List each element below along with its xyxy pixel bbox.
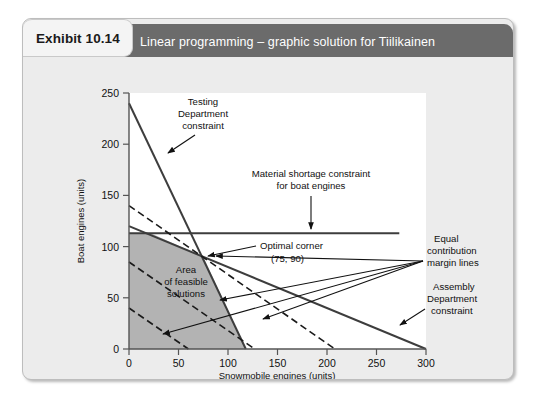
optimal-label-line1: Optimal corner	[260, 240, 324, 251]
y-tick-200: 200	[101, 138, 119, 150]
x-tick-50: 50	[173, 357, 185, 369]
material-label-line2: for boat engines	[277, 180, 346, 191]
exhibit-card: Linear programming – graphic solution fo…	[22, 18, 514, 380]
x-axis-tick-labels: 0 50 100 150 200 250 300	[126, 357, 435, 369]
x-tick-300: 300	[417, 357, 435, 369]
x-tick-100: 100	[219, 357, 237, 369]
material-label-line1: Material shortage constraint	[252, 168, 371, 179]
y-axis-title: Boat engines (units)	[75, 179, 86, 264]
feasible-label-line3: solutions	[167, 288, 205, 299]
assembly-label-line1: Assembly	[433, 281, 475, 292]
testing-label-line2: Department	[178, 108, 228, 119]
testing-label-line3: constraint	[182, 120, 224, 131]
assembly-label-line3: constraint	[431, 305, 473, 316]
assembly-label-line2: Department	[427, 293, 477, 304]
y-tick-0: 0	[113, 343, 119, 355]
equal-margin-label-line3: margin lines	[427, 257, 479, 268]
linear-programming-chart: 250 200 150 100 50 0 0 50 100	[23, 57, 513, 379]
y-tick-250: 250	[101, 87, 119, 99]
y-tick-150: 150	[101, 189, 119, 201]
x-tick-0: 0	[126, 357, 132, 369]
x-tick-200: 200	[318, 357, 336, 369]
exhibit-header: Linear programming – graphic solution fo…	[23, 19, 515, 59]
y-tick-100: 100	[101, 241, 119, 253]
x-axis-ticks	[129, 349, 426, 355]
feasible-label-line1: Area	[176, 264, 197, 275]
testing-label-line1: Testing	[188, 96, 218, 107]
equal-margin-label-line1: Equal	[434, 233, 459, 244]
y-tick-50: 50	[107, 292, 119, 304]
x-tick-150: 150	[269, 357, 287, 369]
exhibit-title: Linear programming – graphic solution fo…	[140, 35, 435, 49]
exhibit-number-tab: Exhibit 10.14	[23, 19, 133, 57]
equal-margin-label-line2: contribution	[427, 245, 477, 256]
chart-region: 250 200 150 100 50 0 0 50 100	[23, 57, 513, 379]
x-axis-title: Snowmobile engines (units)	[219, 370, 336, 379]
y-axis-tick-labels: 250 200 150 100 50 0	[101, 87, 119, 355]
feasible-label-line2: of feasible	[164, 276, 208, 287]
exhibit-number-label: Exhibit 10.14	[36, 31, 120, 46]
x-tick-250: 250	[368, 357, 386, 369]
y-axis-ticks	[123, 93, 129, 349]
